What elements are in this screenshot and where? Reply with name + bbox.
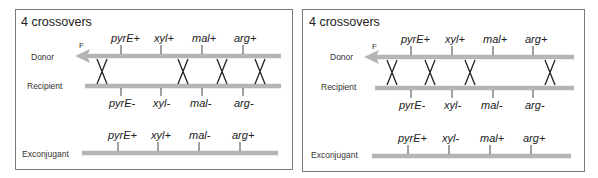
donor-gene-label: xyl+	[153, 32, 174, 44]
panel-title: 4 crossovers	[21, 15, 92, 29]
donor-label: Donor	[31, 52, 54, 62]
exconjugant-gene-label: mal-	[189, 129, 211, 141]
donor-gene-label: pyrE+	[400, 33, 431, 45]
recipient-gene-label: xyl-	[152, 97, 170, 109]
donor-gene-label: arg+	[525, 33, 548, 45]
recipient-gene-label: pyrE-	[398, 99, 426, 111]
exconjugant-gene-label: xyl+	[150, 129, 171, 141]
recipient-gene-label: mal-	[481, 99, 503, 111]
exconjugant-gene-label: xyl-	[441, 132, 459, 144]
exconjugant-gene-label: pyrE+	[107, 129, 138, 141]
panel-left: 4 crossovers Donor Recipient Exconjugant…	[16, 10, 293, 170]
donor-label: Donor	[330, 52, 353, 62]
exconjugant-gene-label: pyrE+	[397, 132, 428, 144]
exconjugant-label: Exconjugant	[311, 150, 358, 160]
f-factor-label: F	[372, 42, 377, 51]
recipient-label: Recipient	[27, 81, 63, 91]
donor-gene-label: pyrE+	[110, 32, 141, 44]
recipient-gene-label: arg-	[525, 99, 545, 111]
f-factor-label: F	[79, 41, 84, 50]
panel-title: 4 crossovers	[309, 15, 380, 29]
recipient-label: Recipient	[321, 82, 357, 92]
recipient-gene-label: pyrE-	[108, 97, 136, 109]
recipient-gene-label: xyl-	[443, 99, 461, 111]
donor-gene-label: mal+	[192, 32, 217, 44]
panel-right: 4 crossovers Donor Recipient Exconjugant…	[303, 10, 585, 172]
exconjugant-gene-label: mal+	[480, 132, 505, 144]
exconjugant-gene-label: arg+	[232, 129, 255, 141]
donor-gene-label: mal+	[483, 33, 508, 45]
donor-gene-label: arg+	[234, 32, 257, 44]
recipient-gene-label: mal-	[190, 97, 212, 109]
exconjugant-gene-label: arg+	[523, 132, 546, 144]
exconjugant-label: Exconjugant	[22, 149, 69, 159]
donor-gene-label: xyl+	[444, 33, 465, 45]
recipient-gene-label: arg-	[234, 97, 254, 109]
crossover-diagram: 4 crossovers Donor Recipient Exconjugant…	[0, 0, 598, 178]
